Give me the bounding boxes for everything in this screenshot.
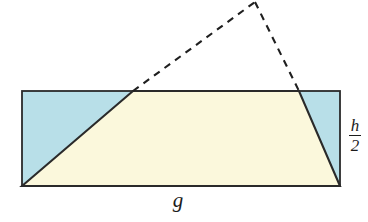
dashed-right-line	[255, 2, 299, 91]
fraction-denominator: 2	[349, 136, 362, 154]
base-length-label: g	[160, 190, 196, 211]
diagram-canvas: g h 2	[0, 0, 368, 222]
height-label: h 2	[343, 117, 367, 154]
fraction-numerator: h	[349, 117, 362, 136]
dashed-left-line	[133, 2, 255, 91]
fraction-h-over-2: h 2	[349, 117, 362, 154]
geometry-figure	[0, 0, 368, 222]
